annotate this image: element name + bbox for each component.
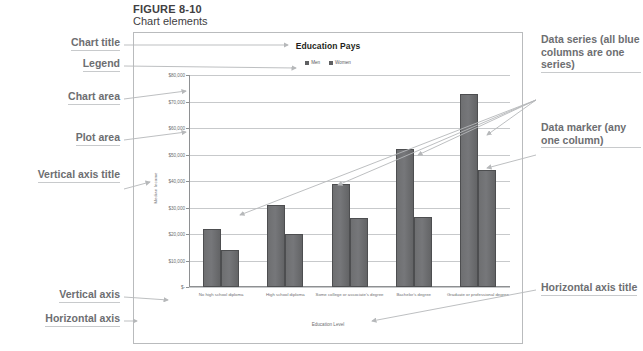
vertical-axis-title: Median Income	[153, 172, 158, 203]
figure-number: FIGURE 8-10	[133, 3, 393, 15]
vertical-axis-tick-label: $-	[181, 285, 185, 290]
vertical-axis-tick-label: $10,000	[168, 258, 185, 263]
annotation-legend: Legend	[10, 57, 120, 72]
annotation-horizontal-axis-title: Horizontal axis title	[541, 281, 641, 296]
vertical-axis-tick-label: $50,000	[168, 152, 185, 157]
vertical-axis-tick-label: $60,000	[168, 126, 185, 131]
annotation-chart-title: Chart title	[10, 36, 120, 51]
data-series-bars: No high school diplomaHigh school diplom…	[189, 75, 510, 287]
bar-group: Graduate or professional degree	[446, 75, 510, 287]
bar-men[interactable]	[267, 205, 285, 287]
bar-women[interactable]	[221, 250, 239, 287]
bar-men[interactable]	[396, 149, 414, 287]
annotation-horizontal-axis: Horizontal axis	[2, 312, 120, 327]
vertical-axis-tick-label: $40,000	[168, 179, 185, 184]
bar-group: High school diploma	[253, 75, 317, 287]
annotation-vertical-axis: Vertical axis	[6, 288, 120, 303]
legend-swatch-icon	[305, 61, 309, 65]
plot-inner: $-$10,000$20,000$30,000$40,000$50,000$60…	[189, 75, 510, 287]
bar-women[interactable]	[350, 218, 368, 287]
bar-group: No high school diploma	[189, 75, 253, 287]
vertical-axis-tick-label: $70,000	[168, 99, 185, 104]
bar-men[interactable]	[460, 94, 478, 287]
bar-women[interactable]	[478, 170, 496, 287]
legend-swatch-icon	[329, 61, 333, 65]
vertical-axis-tick-label: $80,000	[168, 73, 185, 78]
horizontal-axis-title: Education Level	[134, 322, 522, 327]
plot-area: $-$10,000$20,000$30,000$40,000$50,000$60…	[189, 75, 510, 287]
annotation-plot-area: Plot area	[10, 131, 120, 146]
bar-group: Some college or associate's degree	[317, 75, 381, 287]
gridline	[189, 287, 510, 288]
bar-men[interactable]	[332, 184, 350, 287]
chart-legend: Men Women	[134, 60, 522, 65]
chart-area: Education Pays Men Women Median Income $…	[133, 32, 523, 344]
legend-label-women: Women	[335, 60, 351, 65]
bar-group: Bachelor's degree	[382, 75, 446, 287]
legend-label-men: Men	[311, 60, 320, 65]
figure-title: Chart elements	[133, 15, 393, 28]
figure-caption: FIGURE 8-10 Chart elements	[133, 3, 393, 28]
vertical-axis-tick-label: $30,000	[168, 205, 185, 210]
annotation-data-marker: Data marker (any one column)	[541, 121, 641, 148]
bar-women[interactable]	[285, 234, 303, 287]
legend-item-women: Women	[329, 60, 351, 65]
horizontal-axis-tick-label: Graduate or professional degree	[438, 292, 518, 297]
vertical-axis-tick-label: $20,000	[168, 232, 185, 237]
vertical-axis-tick	[186, 287, 189, 288]
bar-men[interactable]	[203, 229, 221, 287]
legend-item-men: Men	[305, 60, 320, 65]
bar-women[interactable]	[414, 217, 432, 287]
chart-title: Education Pays	[134, 41, 522, 51]
annotation-vertical-axis-title: Vertical axis title	[10, 168, 120, 183]
annotation-data-series: Data series (all blue columns are one se…	[541, 33, 641, 73]
annotation-chart-area: Chart area	[10, 90, 120, 105]
